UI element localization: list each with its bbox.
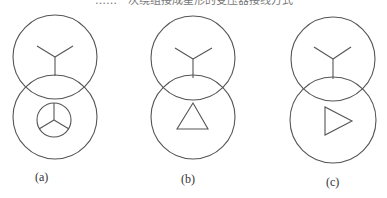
label-b: (b): [181, 172, 195, 187]
wye-in-circle-icon: [37, 103, 71, 137]
secondary-winding-circle: [151, 75, 235, 159]
transformer-a: [13, 15, 97, 159]
delta-right-icon: [325, 107, 352, 135]
transformer-c: [290, 17, 376, 163]
wye-icon: [314, 47, 351, 79]
delta-icon: [177, 103, 208, 129]
wye-icon: [175, 48, 212, 78]
secondary-winding-circle: [13, 75, 97, 159]
wye-icon: [37, 46, 73, 76]
transformer-b: [151, 16, 235, 159]
label-c: (c): [326, 175, 339, 190]
label-a: (a): [35, 170, 48, 185]
transformer-diagrams: [0, 0, 387, 198]
secondary-winding-circle: [290, 77, 376, 163]
